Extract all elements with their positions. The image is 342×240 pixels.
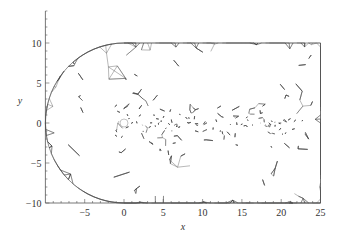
y-tick-label: 10 (31, 38, 41, 49)
y-tick-label: 5 (36, 78, 41, 89)
x-axis-ticks: −50510152025 (53, 199, 325, 218)
cylinder (120, 119, 128, 127)
x-tick-label: 20 (276, 207, 286, 218)
y-axis-label: y (17, 95, 23, 106)
x-tick-label: 0 (122, 207, 127, 218)
mesh-figure: −50510152025 1050−5−10 x y (0, 0, 342, 240)
mesh-region (45, 43, 320, 203)
x-tick-label: 25 (316, 207, 326, 218)
x-tick-label: 10 (198, 207, 208, 218)
y-axis-ticks: 1050−5−10 (26, 11, 50, 209)
y-tick-label: −10 (26, 198, 42, 209)
y-tick-label: 0 (36, 118, 41, 129)
x-tick-label: 5 (161, 207, 166, 218)
axes (45, 11, 320, 203)
y-tick-label: −5 (31, 158, 42, 169)
x-tick-label: −5 (79, 207, 90, 218)
mesh-edges (45, 43, 320, 203)
x-tick-label: 15 (237, 207, 247, 218)
x-axis-label: x (180, 221, 186, 232)
